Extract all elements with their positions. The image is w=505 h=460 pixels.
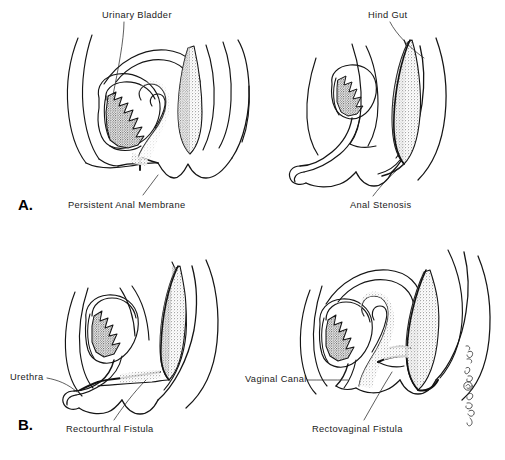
- artist-signature: [0, 0, 505, 460]
- medical-illustration-figure: Urinary Bladder Persistent Anal Membrane…: [0, 0, 505, 460]
